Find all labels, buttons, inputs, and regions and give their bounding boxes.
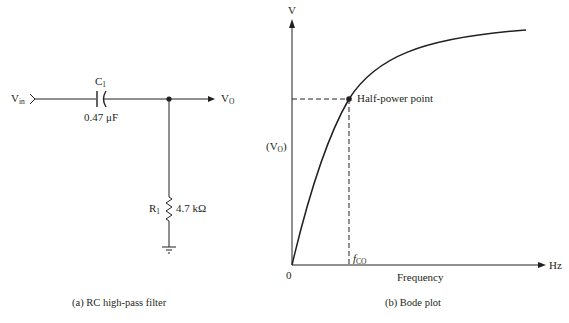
- cutoff-frequency-label: fCO: [353, 253, 366, 264]
- x-axis-label: Frequency: [397, 272, 443, 283]
- y-axis-quantity: (VO): [266, 141, 287, 152]
- junction-node: [166, 96, 171, 101]
- input-label: Vin: [11, 93, 25, 104]
- response-curve: [292, 30, 526, 265]
- schematic-and-plot-canvas: [0, 0, 569, 323]
- resistor-value: 4.7 kΩ: [176, 203, 206, 214]
- input-terminal-icon: [30, 94, 35, 104]
- half-power-point-marker: [346, 96, 352, 102]
- capacitor-value: 0.47 μF: [84, 112, 118, 123]
- origin-label: 0: [286, 270, 292, 281]
- output-arrow-icon: [208, 96, 215, 102]
- y-axis-label: V: [288, 5, 296, 16]
- bode-caption: (b) Bode plot: [385, 298, 441, 309]
- output-label: VO: [221, 93, 234, 104]
- x-axis-arrow-icon: [538, 262, 546, 268]
- resistor-zigzag-icon: [166, 197, 172, 221]
- y-axis-arrow-icon: [289, 19, 295, 28]
- capacitor-label: C1: [95, 76, 106, 87]
- half-power-annotation: Half-power point: [357, 93, 433, 104]
- x-axis-unit: Hz: [549, 260, 562, 271]
- circuit-caption: (a) RC high-pass filter: [72, 298, 166, 309]
- resistor-label: R1: [149, 203, 160, 214]
